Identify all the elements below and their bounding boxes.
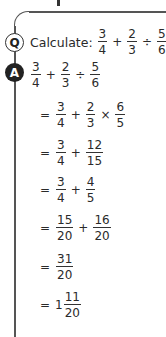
fraction: 1120: [64, 291, 81, 319]
frame-corner: [14, 11, 30, 27]
operator: +: [112, 35, 122, 49]
equals-sign: =: [40, 108, 50, 122]
numerator: 2: [61, 61, 71, 75]
fraction: 56: [90, 61, 100, 89]
fraction: 45: [86, 176, 96, 204]
fraction: 1215: [86, 139, 103, 167]
denominator: 6: [91, 75, 99, 89]
fraction: 56: [157, 28, 166, 56]
denominator: 4: [57, 153, 65, 167]
operator: ×: [100, 108, 110, 122]
denominator: 3: [87, 115, 95, 129]
answer-step: =11120: [40, 291, 82, 319]
operator: ÷: [142, 35, 152, 49]
operator: +: [71, 108, 81, 122]
operator: +: [46, 68, 56, 82]
numerator: 12: [86, 139, 103, 153]
numerator: 31: [56, 253, 73, 267]
denominator: 4: [99, 42, 107, 56]
numerator: 16: [93, 214, 110, 228]
denominator: 20: [57, 228, 72, 242]
answer-step: =34+1215: [40, 139, 104, 167]
fraction: 23: [127, 28, 137, 56]
fraction: 3120: [56, 253, 73, 281]
answer-step: =34+23×65: [40, 101, 126, 129]
denominator: 6: [158, 42, 166, 56]
operator: +: [71, 146, 81, 160]
question-badge-icon: Q: [5, 33, 24, 52]
fraction: 1520: [56, 214, 73, 242]
fraction: 34: [56, 176, 66, 204]
question-label: Calculate:: [30, 35, 93, 50]
top-tick-mark: [57, 0, 60, 6]
equals-sign: =: [40, 221, 50, 235]
question-row: Calculate: 34+23÷56: [30, 28, 166, 56]
equals-sign: =: [40, 183, 50, 197]
fraction: 1620: [93, 214, 110, 242]
numerator: 15: [56, 214, 73, 228]
answer-step: =34+45: [40, 176, 96, 204]
equals-sign: =: [40, 260, 50, 274]
fraction: 65: [115, 101, 125, 129]
denominator: 4: [32, 75, 40, 89]
frame-top-line: [29, 11, 166, 13]
fraction: 34: [98, 28, 108, 56]
operator: ÷: [75, 68, 85, 82]
answer-step: 34+23÷56: [30, 61, 101, 89]
operator: +: [71, 183, 81, 197]
operator: +: [78, 221, 88, 235]
denominator: 3: [62, 75, 70, 89]
denominator: 4: [57, 115, 65, 129]
whole-number: 1: [55, 298, 63, 312]
numerator: 11: [64, 291, 81, 305]
numerator: 2: [86, 101, 96, 115]
answer-badge-icon: A: [5, 63, 24, 82]
denominator: 3: [128, 42, 136, 56]
denominator: 20: [57, 267, 72, 281]
numerator: 4: [86, 176, 96, 190]
equals-sign: =: [40, 298, 50, 312]
fraction: 23: [86, 101, 96, 129]
numerator: 3: [31, 61, 41, 75]
denominator: 4: [57, 190, 65, 204]
question-expression: 34+23÷56: [97, 28, 166, 56]
numerator: 3: [56, 139, 66, 153]
fraction: 34: [56, 101, 66, 129]
numerator: 3: [56, 176, 66, 190]
answer-step: =3120: [40, 253, 74, 281]
fraction: 34: [56, 139, 66, 167]
denominator: 20: [65, 305, 80, 319]
denominator: 20: [94, 228, 109, 242]
equals-sign: =: [40, 146, 50, 160]
answer-step: =1520+1620: [40, 214, 112, 242]
numerator: 5: [90, 61, 100, 75]
numerator: 5: [157, 28, 166, 42]
fraction: 23: [61, 61, 71, 89]
denominator: 5: [87, 190, 95, 204]
denominator: 5: [116, 115, 124, 129]
numerator: 3: [56, 101, 66, 115]
denominator: 15: [87, 153, 102, 167]
numerator: 2: [127, 28, 137, 42]
numerator: 3: [98, 28, 108, 42]
fraction: 34: [31, 61, 41, 89]
numerator: 6: [115, 101, 125, 115]
